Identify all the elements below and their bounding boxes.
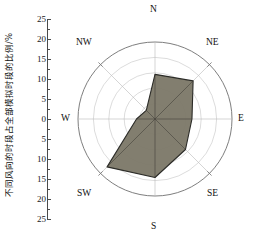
compass-label-n: N	[150, 4, 157, 14]
compass-label-se: SE	[207, 188, 218, 198]
polar-plot	[0, 0, 254, 238]
compass-label-ne: NE	[206, 37, 219, 47]
compass-label-w: W	[61, 113, 70, 123]
compass-label-nw: NW	[76, 37, 92, 47]
compass-label-e: E	[238, 113, 244, 123]
compass-label-s: S	[151, 221, 156, 231]
compass-label-sw: SW	[77, 188, 91, 198]
wind-rose-polygon	[107, 74, 193, 177]
wind-rose-chart: 不同风向的时段占全部模拟时段的比例/% 2520151050510152025 …	[0, 0, 254, 238]
